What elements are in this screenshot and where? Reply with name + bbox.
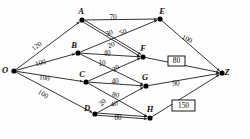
node-f [140,54,145,59]
node-label-d: D [83,103,90,113]
edge-weight-b-g: 10 [98,60,106,68]
edge-weight-o-a: 120 [30,40,44,53]
node-b [75,50,80,55]
edge-weight-g-z: 90 [172,80,180,88]
boxed-value-80: 80 [173,56,181,65]
edge-weight-d-h: 40 [110,99,120,109]
node-a [79,17,84,22]
edge-weight-d-g: 20 [97,97,108,108]
edge-weight-a-f: 30 [104,28,114,38]
edge-weight-o-c: 100 [38,73,50,83]
node-label-f: F [139,43,146,53]
edge-a-to-e [85,19,157,20]
edge-weight-o-d: 100 [36,88,50,101]
edge-weight-c-g: 40 [111,78,119,86]
node-label-c: C [79,69,85,79]
edge-weight-b-f: 40 [103,50,111,58]
node-e [157,16,162,21]
edge-weight-c-f: 20 [111,63,122,74]
node-label-b: B [70,40,77,50]
node-o [11,68,16,73]
node-label-e: E [158,6,165,16]
edge-weight-a-e: 70 [109,14,117,22]
diagram-canvas: 80150 OABCDEFGHZ 12010010010070302050401… [0,0,250,139]
edge-o-to-a [16,22,79,70]
network-flow-diagram: 80150 OABCDEFGHZ 12010010010070302050401… [0,0,250,139]
node-label-h: H [146,104,154,114]
boxed-value-150: 150 [178,101,189,110]
node-label-z: Z [223,67,229,77]
node-h [147,115,152,120]
edge-weight-o-b: 100 [34,58,47,68]
edge-g-to-z [149,74,219,86]
node-g [143,83,148,88]
node-d [92,111,97,116]
node-label-g: G [142,72,149,82]
node-label-a: A [77,6,84,16]
node-label-o: O [2,65,8,75]
node-c [83,79,88,84]
edge-weight-e-z: 100 [180,33,194,45]
edge-a-to-f [85,20,141,54]
edge-weight-d-h: 80 [114,114,122,122]
